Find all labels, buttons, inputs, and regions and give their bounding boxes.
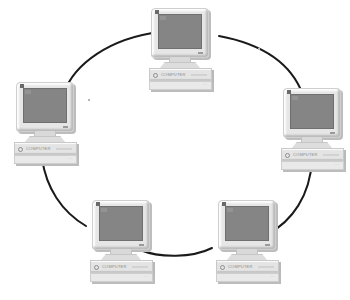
monitor-screen bbox=[290, 94, 334, 129]
monitor-screen bbox=[158, 14, 202, 49]
computer-base-unit: COMPUTER bbox=[281, 148, 344, 161]
computer-base-unit: COMPUTER bbox=[149, 68, 212, 81]
computer-node-top[interactable]: COMPUTER ··· bbox=[147, 8, 219, 92]
base-label: COMPUTER bbox=[161, 72, 186, 78]
computer-icon: COMPUTER ··· bbox=[279, 88, 350, 172]
vendor-logo-icon bbox=[285, 153, 290, 158]
crt-monitor-icon bbox=[92, 200, 150, 250]
computer-node-left[interactable]: COMPUTER ··· bbox=[12, 82, 84, 166]
base-label: COMPUTER bbox=[293, 152, 318, 158]
tray-mark: ··· bbox=[270, 275, 274, 279]
tray-mark: ··· bbox=[68, 157, 72, 161]
vendor-logo-icon bbox=[153, 73, 158, 78]
link-bottomleft-left bbox=[42, 158, 86, 226]
drive-slot-icon bbox=[258, 266, 274, 268]
screen-glint bbox=[292, 96, 298, 100]
crt-monitor-icon bbox=[283, 88, 341, 138]
tray-mark: ··· bbox=[203, 83, 207, 87]
computer-base-unit: COMPUTER bbox=[90, 260, 153, 273]
raster-speck bbox=[88, 99, 90, 101]
drive-slot-icon bbox=[56, 148, 72, 150]
crt-monitor-icon bbox=[218, 200, 276, 250]
screen-glint bbox=[160, 16, 166, 20]
computer-node-bottom-right[interactable]: COMPUTER ··· bbox=[214, 200, 286, 284]
tray-mark: ··· bbox=[335, 163, 339, 167]
base-label: COMPUTER bbox=[26, 146, 51, 152]
computer-lower-tray: ··· bbox=[90, 273, 153, 282]
computer-node-right[interactable]: COMPUTER ··· bbox=[279, 88, 350, 172]
tray-mark: ··· bbox=[144, 275, 148, 279]
computer-base-unit: COMPUTER bbox=[14, 142, 77, 155]
computer-lower-tray: ··· bbox=[149, 81, 212, 90]
power-led-icon bbox=[63, 126, 68, 128]
computer-lower-tray: ··· bbox=[281, 161, 344, 170]
computer-base-unit: COMPUTER bbox=[216, 260, 279, 273]
computer-lower-tray: ··· bbox=[14, 155, 77, 164]
base-label: COMPUTER bbox=[102, 264, 127, 270]
power-led-icon bbox=[265, 244, 270, 246]
monitor-screen bbox=[99, 206, 143, 241]
link-top-right bbox=[219, 36, 303, 95]
monitor-screen bbox=[23, 88, 67, 123]
vendor-logo-icon bbox=[94, 265, 99, 270]
computer-icon: COMPUTER ··· bbox=[88, 200, 160, 284]
computer-icon: COMPUTER ··· bbox=[214, 200, 286, 284]
drive-slot-icon bbox=[191, 74, 207, 76]
screen-glint bbox=[25, 90, 31, 94]
crt-monitor-icon bbox=[151, 8, 209, 58]
monitor-screen bbox=[225, 206, 269, 241]
computer-icon: COMPUTER ··· bbox=[12, 82, 84, 166]
power-led-icon bbox=[198, 52, 203, 54]
computer-icon: COMPUTER ··· bbox=[147, 8, 219, 92]
ring-topology-diagram: COMPUTER ··· COMPUTER bbox=[0, 0, 350, 300]
drive-slot-icon bbox=[323, 154, 339, 156]
computer-lower-tray: ··· bbox=[216, 273, 279, 282]
drive-slot-icon bbox=[132, 266, 148, 268]
power-led-icon bbox=[330, 132, 335, 134]
power-led-icon bbox=[139, 244, 144, 246]
computer-node-bottom-left[interactable]: COMPUTER ··· bbox=[88, 200, 160, 284]
crt-monitor-icon bbox=[16, 82, 74, 132]
base-label: COMPUTER bbox=[228, 264, 253, 270]
screen-glint bbox=[227, 208, 233, 212]
vendor-logo-icon bbox=[18, 147, 23, 152]
raster-speck bbox=[258, 48, 260, 50]
vendor-logo-icon bbox=[220, 265, 225, 270]
screen-glint bbox=[101, 208, 107, 212]
